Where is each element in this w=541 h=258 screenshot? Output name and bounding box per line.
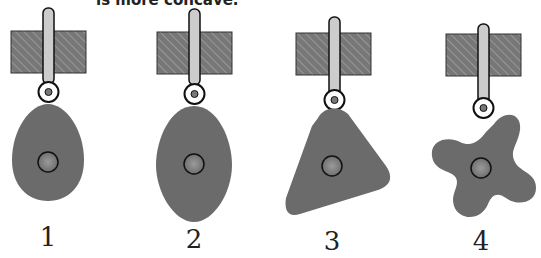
figure-2: 2 [156,9,232,254]
roller-pin [191,91,198,98]
figure-label: 3 [324,226,341,256]
roller-pin [45,89,52,96]
camshaft-hub [471,158,491,178]
camshaft-hub [322,156,342,176]
follower-rod [478,24,489,106]
follower-rod [43,8,54,84]
follower-rod [329,17,340,97]
figure-label: 1 [40,222,57,252]
camshaft-hub [38,152,58,172]
roller-pin [480,105,487,112]
cam-follower-diagram: 1 2 3 4 [0,0,541,258]
figure-label: 4 [473,226,490,256]
roller-pin [331,97,338,104]
camshaft-hub [184,154,204,174]
figure-3: 3 [286,17,391,256]
figure-4: 4 [432,24,536,256]
figure-label: 2 [186,224,203,254]
follower-rod [189,9,200,85]
figure-1: 1 [11,8,86,252]
